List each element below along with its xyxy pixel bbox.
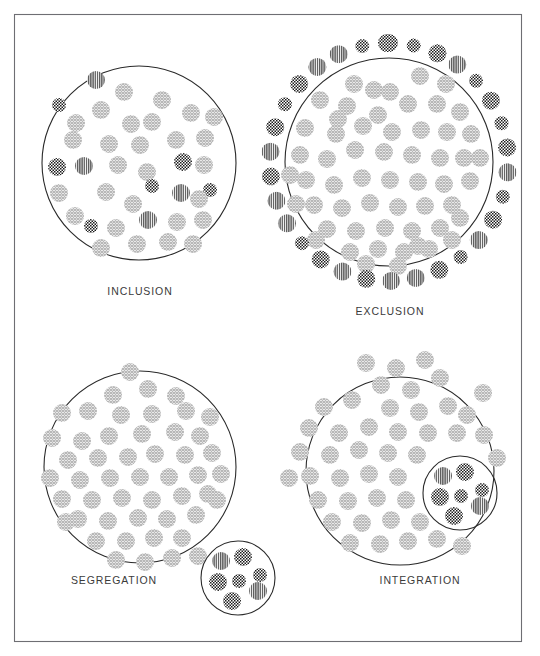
diagram-canvas: INCLUSION EXCLUSION SEGREGATION INTEGRAT… bbox=[0, 0, 540, 656]
dot-dark-stripe bbox=[382, 272, 400, 290]
dot-dark-check bbox=[295, 236, 309, 250]
dot-light-hatch bbox=[403, 146, 421, 164]
dot-dark-check bbox=[266, 118, 284, 136]
dot-light-hatch bbox=[112, 406, 130, 424]
dot-dark-stripe bbox=[75, 157, 93, 175]
dot-dark-check bbox=[407, 39, 421, 53]
dot-light-hatch bbox=[122, 115, 140, 133]
dot-light-hatch bbox=[397, 491, 415, 509]
dot-light-hatch bbox=[409, 173, 427, 191]
dot-light-hatch bbox=[301, 467, 319, 485]
dot-light-hatch bbox=[66, 207, 84, 225]
dot-light-hatch bbox=[315, 398, 333, 416]
dot-light-hatch bbox=[184, 235, 202, 253]
dot-light-hatch bbox=[387, 359, 405, 377]
dot-light-hatch bbox=[208, 491, 226, 509]
dot-light-hatch bbox=[376, 219, 394, 237]
dot-light-hatch bbox=[291, 146, 309, 164]
dot-light-hatch bbox=[136, 553, 154, 571]
dot-light-hatch bbox=[412, 121, 430, 139]
dot-light-hatch bbox=[128, 235, 146, 253]
dot-light-hatch bbox=[145, 529, 163, 547]
dot-light-hatch bbox=[381, 83, 399, 101]
dot-dark-stripe bbox=[87, 71, 105, 89]
dot-light-hatch bbox=[368, 489, 386, 507]
dot-light-hatch bbox=[399, 95, 417, 113]
dot-light-hatch bbox=[455, 149, 473, 167]
dot-light-hatch bbox=[416, 351, 434, 369]
dot-dark-check bbox=[290, 75, 308, 93]
dot-light-hatch bbox=[281, 166, 299, 184]
dot-light-hatch bbox=[331, 469, 349, 487]
dot-light-hatch bbox=[329, 110, 347, 128]
dot-light-hatch bbox=[360, 465, 378, 483]
panel-label-exclusion: EXCLUSION bbox=[356, 305, 425, 317]
dot-light-hatch bbox=[369, 240, 387, 258]
dot-light-hatch bbox=[323, 513, 341, 531]
dot-light-hatch bbox=[92, 101, 110, 119]
dot-light-hatch bbox=[431, 149, 449, 167]
dot-light-hatch bbox=[41, 469, 59, 487]
dot-dark-check bbox=[278, 97, 292, 111]
dot-dark-stripe bbox=[139, 211, 157, 229]
dot-dark-check bbox=[48, 158, 66, 176]
dot-light-hatch bbox=[196, 129, 214, 147]
dot-light-hatch bbox=[97, 183, 115, 201]
dot-dark-check bbox=[357, 270, 375, 288]
dot-light-hatch bbox=[89, 449, 107, 467]
dot-light-hatch bbox=[438, 123, 456, 141]
dot-light-hatch bbox=[353, 514, 371, 532]
dot-dark-check bbox=[312, 250, 330, 268]
dot-light-hatch bbox=[43, 429, 61, 447]
dot-light-hatch bbox=[166, 423, 184, 441]
dot-light-hatch bbox=[307, 231, 325, 249]
dot-light-hatch bbox=[411, 67, 429, 85]
dot-dark-stripe bbox=[471, 497, 489, 515]
dot-light-hatch bbox=[488, 449, 506, 467]
dot-light-hatch bbox=[71, 471, 89, 489]
dot-light-hatch bbox=[443, 231, 461, 249]
dot-light-hatch bbox=[416, 197, 434, 215]
dot-light-hatch bbox=[382, 511, 400, 529]
dot-light-hatch bbox=[190, 190, 208, 208]
dot-light-hatch bbox=[100, 427, 118, 445]
dot-light-hatch bbox=[195, 156, 213, 174]
dot-dark-stripe bbox=[330, 45, 348, 63]
dot-light-hatch bbox=[365, 81, 383, 99]
dot-light-hatch bbox=[291, 443, 309, 461]
dot-dark-stripe bbox=[249, 582, 267, 600]
dot-light-hatch bbox=[131, 468, 149, 486]
dot-light-hatch bbox=[410, 403, 428, 421]
dot-light-hatch bbox=[321, 446, 339, 464]
dot-light-hatch bbox=[448, 424, 466, 442]
dot-light-hatch bbox=[435, 175, 453, 193]
dot-light-hatch bbox=[129, 509, 147, 527]
dot-light-hatch bbox=[173, 487, 191, 505]
dot-light-hatch bbox=[146, 445, 164, 463]
dot-light-hatch bbox=[203, 444, 221, 462]
panel-label-segregation: SEGREGATION bbox=[71, 574, 157, 586]
dot-light-hatch bbox=[475, 426, 493, 444]
dot-light-hatch bbox=[437, 75, 455, 93]
dot-dark-stripe bbox=[267, 192, 285, 210]
dot-dark-stripe bbox=[172, 184, 190, 202]
dot-dark-check bbox=[469, 74, 483, 88]
dot-light-hatch bbox=[163, 549, 181, 567]
dot-dark-stripe bbox=[278, 214, 296, 232]
dot-light-hatch bbox=[453, 537, 471, 555]
dot-light-hatch bbox=[354, 117, 372, 135]
dot-dark-stripe bbox=[499, 163, 517, 181]
dot-light-hatch bbox=[347, 222, 365, 240]
dot-light-hatch bbox=[345, 75, 363, 93]
dot-dark-check bbox=[223, 592, 241, 610]
dot-light-hatch bbox=[389, 423, 407, 441]
dot-light-hatch bbox=[139, 380, 157, 398]
dot-light-hatch bbox=[428, 530, 446, 548]
dot-light-hatch bbox=[296, 119, 314, 137]
panel-label-inclusion: INCLUSION bbox=[107, 285, 172, 297]
dot-light-hatch bbox=[57, 513, 75, 531]
dot-light-hatch bbox=[389, 468, 407, 486]
dot-light-hatch bbox=[357, 354, 375, 372]
dot-light-hatch bbox=[309, 491, 327, 509]
dot-light-hatch bbox=[143, 113, 161, 131]
